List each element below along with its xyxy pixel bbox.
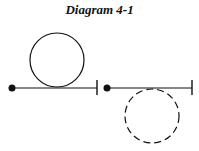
dashed-circle [125, 89, 179, 143]
diagram-canvas [0, 0, 199, 151]
right-figure [104, 80, 193, 143]
left-dot [9, 85, 16, 92]
left-figure [9, 33, 98, 95]
right-dot [104, 85, 111, 92]
solid-circle [30, 33, 84, 87]
